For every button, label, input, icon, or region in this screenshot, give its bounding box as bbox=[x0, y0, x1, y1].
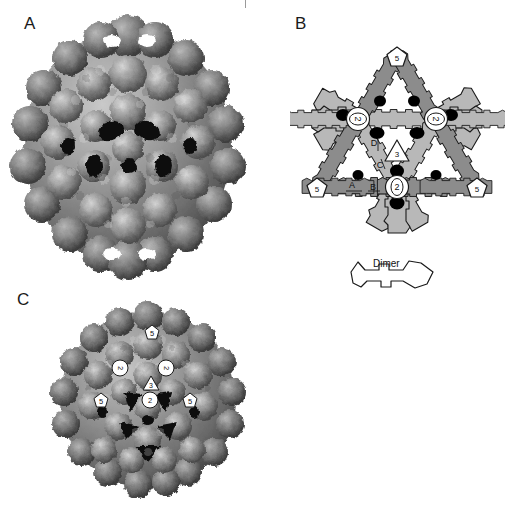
panel-a-capsid-image bbox=[8, 14, 248, 284]
schematic-svg: 2 2 2 3 5 bbox=[290, 35, 505, 250]
dimer-key-label: Dimer bbox=[373, 258, 400, 269]
capsid-a-svg bbox=[8, 14, 248, 284]
c-five-left-label: 5 bbox=[99, 397, 103, 406]
panel-c-capsid-image: 5 5 5 2 bbox=[48, 300, 248, 500]
two-fold-marker-bottom: 2 bbox=[386, 176, 409, 199]
c-five-right-label: 5 bbox=[188, 397, 192, 406]
c-two-right-label: 2 bbox=[162, 366, 171, 370]
two-fold-marker-upper-left: 2 bbox=[347, 108, 370, 131]
subunit-label-c: C bbox=[377, 160, 384, 170]
two-fold-marker-upper-right: 2 bbox=[425, 108, 448, 131]
c-five-top-label: 5 bbox=[150, 329, 154, 338]
c-two-left-label: 2 bbox=[116, 366, 125, 370]
c-three-label: 3 bbox=[149, 382, 153, 389]
scan-artifact-tick bbox=[245, 0, 246, 8]
three-fold-label: 3 bbox=[395, 150, 400, 159]
c-two-bottom-label: 2 bbox=[148, 396, 152, 405]
c-marker-two-left: 2 bbox=[112, 360, 128, 376]
five-fold-label-right: 5 bbox=[475, 185, 480, 194]
capsid-c-svg: 5 5 5 2 bbox=[48, 300, 248, 500]
five-fold-marker-top: 5 bbox=[387, 47, 407, 66]
subunit-label-d: D bbox=[371, 138, 378, 148]
subunit-label-a: A bbox=[349, 180, 355, 190]
panel-letter-c: C bbox=[17, 290, 30, 310]
dimer-key-legend: Dimer bbox=[345, 250, 450, 298]
figure-root: A B C bbox=[0, 0, 509, 509]
panel-letter-b: B bbox=[295, 14, 307, 34]
subunit-label-b: B bbox=[370, 182, 376, 192]
panel-b-schematic: 2 2 2 3 5 bbox=[290, 35, 505, 250]
c-marker-two-right: 2 bbox=[158, 360, 174, 376]
two-fold-label-ur: 2 bbox=[431, 116, 441, 121]
dimer-key-svg: Dimer bbox=[345, 250, 450, 298]
c-marker-two-bottom: 2 bbox=[142, 392, 158, 408]
five-fold-label-top: 5 bbox=[395, 54, 400, 63]
two-fold-label-ul: 2 bbox=[353, 116, 363, 121]
five-fold-label-left: 5 bbox=[315, 185, 320, 194]
three-fold-marker: 3 bbox=[385, 140, 409, 161]
two-fold-label-b: 2 bbox=[394, 182, 399, 192]
